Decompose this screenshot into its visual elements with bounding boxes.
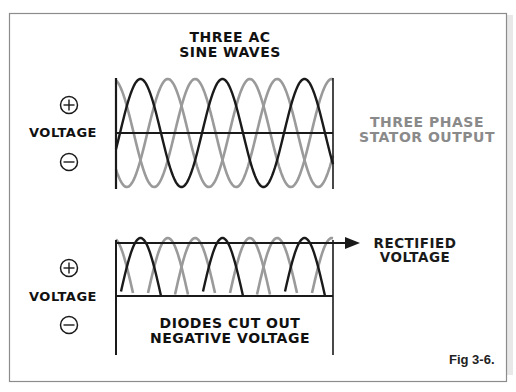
rectified-waves — [116, 238, 333, 296]
rectified-label-line-2: VOLTAGE — [360, 250, 470, 264]
frame-shadow — [507, 15, 513, 375]
caption-line-1: DIODES CUT OUT — [130, 316, 330, 331]
title-line-1: THREE AC — [150, 30, 310, 45]
stator-label-line-1: THREE PHASE — [352, 115, 502, 130]
phase-C-rectified-wave — [116, 238, 297, 295]
voltage-label-top: VOLTAGE — [18, 126, 108, 140]
title-line-2: SINE WAVES — [150, 45, 310, 60]
plus-circle-icon — [61, 260, 78, 277]
stator-output-label: THREE PHASE STATOR OUTPUT — [352, 115, 502, 144]
minus-circle-icon — [61, 154, 78, 171]
voltage-label-bottom: VOLTAGE — [18, 290, 108, 304]
rectified-voltage-label: RECTIFIED VOLTAGE — [360, 236, 470, 264]
figure-number: Fig 3-6. — [449, 352, 495, 367]
arrow-head-icon — [345, 237, 360, 249]
minus-circle-icon — [61, 317, 78, 334]
figure-canvas: THREE AC SINE WAVES VOLTAGE THREE PHASE … — [0, 0, 516, 392]
stator-label-line-2: STATOR OUTPUT — [352, 130, 502, 145]
top-title: THREE AC SINE WAVES — [150, 30, 310, 59]
caption-line-2: NEGATIVE VOLTAGE — [130, 331, 330, 346]
diodes-caption: DIODES CUT OUT NEGATIVE VOLTAGE — [130, 316, 330, 345]
rectified-label-line-1: RECTIFIED — [360, 236, 470, 250]
three-phase-plot — [116, 78, 333, 189]
plus-circle-icon — [61, 97, 78, 114]
